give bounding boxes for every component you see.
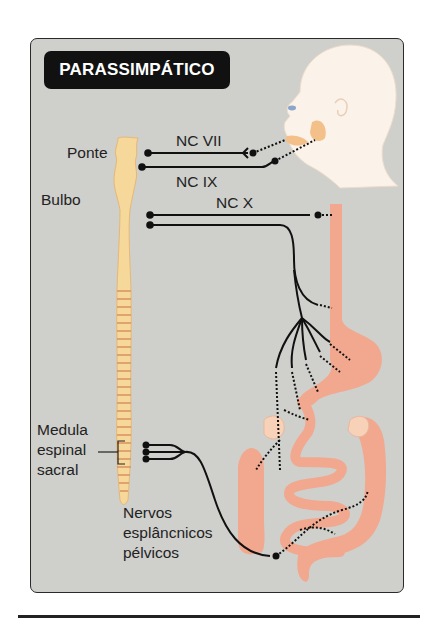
label-medula-line3: sacral [37, 460, 78, 479]
label-medula-line2: espinal [37, 440, 86, 459]
label-nc-ix: NC IX [176, 172, 217, 191]
label-medula-line1: Medula [37, 420, 88, 439]
label-nc-x: NC X [216, 193, 253, 212]
eye-icon [288, 106, 296, 111]
label-nervos-line1: Nervos [123, 503, 172, 522]
parasympathetic-diagram-art [0, 0, 428, 626]
label-bulbo: Bulbo [41, 190, 81, 209]
label-ponte: Ponte [67, 143, 108, 162]
label-nervos-line3: pélvicos [123, 543, 179, 562]
title-badge: PARASSIMPÁTICO [44, 51, 230, 89]
head-illustration [284, 45, 398, 188]
label-nervos-line2: esplâncnicos [123, 523, 213, 542]
cecum-appendix [264, 416, 284, 439]
bottom-divider [18, 615, 420, 618]
label-nc-vii: NC VII [176, 131, 222, 150]
